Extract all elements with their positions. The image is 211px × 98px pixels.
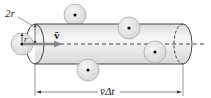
molecule-inside [144,41,166,63]
molecule-top [64,4,86,26]
molecule-top-right [118,17,140,39]
molecule-bottom-left [77,59,99,81]
velocity-label: v̄ [54,29,60,41]
length-label: v̄Δt [100,85,115,97]
collision-cylinder-diagram: 2r r v̄ v̄Δt [0,0,211,98]
radius-label: r [24,34,28,44]
diameter-label: 2r [5,7,16,19]
